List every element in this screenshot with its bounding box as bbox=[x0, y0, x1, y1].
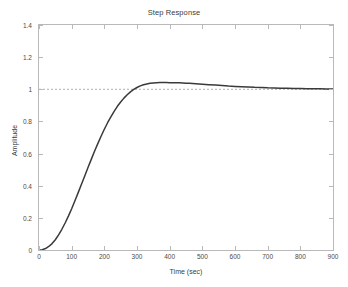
y-tick bbox=[39, 154, 43, 155]
x-tick-label: 100 bbox=[66, 253, 77, 260]
x-tick-label: 0 bbox=[37, 253, 41, 260]
y-tick bbox=[39, 218, 43, 219]
x-tick bbox=[137, 246, 138, 250]
x-tick-label: 800 bbox=[295, 253, 306, 260]
plot-area bbox=[38, 24, 334, 251]
x-tick-top bbox=[202, 25, 203, 29]
y-tick-right bbox=[329, 57, 333, 58]
y-tick-right bbox=[329, 154, 333, 155]
x-tick-label: 400 bbox=[164, 253, 175, 260]
x-tick bbox=[104, 246, 105, 250]
x-axis-title: Time (sec) bbox=[38, 268, 334, 275]
response-line bbox=[39, 83, 333, 250]
x-tick-label: 600 bbox=[230, 253, 241, 260]
page-title: Step Response bbox=[0, 8, 348, 17]
y-tick bbox=[39, 57, 43, 58]
y-tick-label: 0.2 bbox=[0, 214, 32, 221]
x-tick-top bbox=[268, 25, 269, 29]
x-tick bbox=[72, 246, 73, 250]
x-tick-top bbox=[170, 25, 171, 29]
x-tick-label: 900 bbox=[328, 253, 339, 260]
y-tick-label: 0 bbox=[0, 247, 32, 254]
x-tick-label: 500 bbox=[197, 253, 208, 260]
y-tick-label: 0.8 bbox=[0, 118, 32, 125]
y-tick-right bbox=[329, 89, 333, 90]
x-tick bbox=[202, 246, 203, 250]
y-tick-label: 1.2 bbox=[0, 54, 32, 61]
x-tick-top bbox=[137, 25, 138, 29]
step-response-figure: Step Response Amplitude Time (sec) 01002… bbox=[0, 0, 348, 287]
x-tick-label: 700 bbox=[262, 253, 273, 260]
x-tick bbox=[300, 246, 301, 250]
y-tick-label: 1 bbox=[0, 86, 32, 93]
x-tick-top bbox=[104, 25, 105, 29]
y-tick-label: 0.6 bbox=[0, 150, 32, 157]
x-tick-label: 300 bbox=[132, 253, 143, 260]
step-response-curve bbox=[39, 25, 333, 250]
y-tick-label: 1.4 bbox=[0, 22, 32, 29]
y-tick-right bbox=[329, 186, 333, 187]
y-tick bbox=[39, 186, 43, 187]
x-tick bbox=[268, 246, 269, 250]
y-tick-right bbox=[329, 121, 333, 122]
y-axis-title: Amplitude bbox=[11, 101, 18, 181]
y-tick bbox=[39, 89, 43, 90]
x-tick-top bbox=[300, 25, 301, 29]
x-tick-label: 200 bbox=[99, 253, 110, 260]
y-tick-right bbox=[329, 218, 333, 219]
y-tick-right bbox=[329, 25, 333, 26]
x-tick bbox=[170, 246, 171, 250]
x-tick-top bbox=[235, 25, 236, 29]
y-tick bbox=[39, 25, 43, 26]
plot-inner bbox=[39, 25, 333, 250]
x-tick-top bbox=[72, 25, 73, 29]
y-tick-label: 0.4 bbox=[0, 182, 32, 189]
x-tick bbox=[235, 246, 236, 250]
y-tick bbox=[39, 121, 43, 122]
